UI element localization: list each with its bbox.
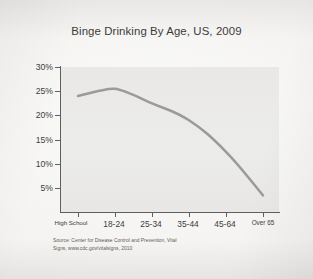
x-axis-label-35-44: 35-44 (177, 219, 198, 229)
y-axis-tick (55, 115, 61, 116)
x-axis-tick (115, 212, 116, 217)
source-note-line-2: Signs, www.cdc.gov/vitalsigns, 2010 (53, 245, 238, 253)
y-axis-label-15: 15% (7, 135, 53, 145)
y-axis-tick (55, 91, 61, 92)
x-axis-tick (78, 212, 79, 217)
plot-area (61, 67, 279, 212)
x-axis-tick (189, 212, 190, 217)
source-note-line-1: Source: Center for Disease Control and P… (53, 237, 238, 245)
x-axis-label-high-school: High School (55, 219, 88, 226)
x-axis-tick (152, 212, 153, 217)
y-axis-tick (55, 164, 61, 165)
y-axis-label-5: 5% (7, 183, 53, 193)
chart-title: Binge Drinking By Age, US, 2009 (0, 25, 313, 37)
x-axis-label-18-24: 18-24 (103, 219, 124, 229)
x-axis-tick (263, 212, 264, 217)
y-axis-label-20: 20% (7, 110, 53, 120)
x-axis-tick (226, 212, 227, 217)
y-axis-tick (55, 188, 61, 189)
x-axis-label-25-34: 25-34 (140, 219, 161, 229)
x-axis-label-over-65: Over 65 (252, 219, 275, 226)
x-axis-line (60, 212, 280, 213)
y-axis-tick (55, 67, 61, 68)
source-note: Source: Center for Disease Control and P… (53, 237, 238, 253)
y-axis-label-10: 10% (7, 159, 53, 169)
y-axis-label-25: 25% (7, 86, 53, 96)
y-axis-tick (55, 140, 61, 141)
x-axis-label-45-64: 45-64 (214, 219, 235, 229)
y-axis-label-30: 30% (7, 62, 53, 72)
chart-page: Binge Drinking By Age, US, 2009 30% 25% … (0, 0, 313, 279)
